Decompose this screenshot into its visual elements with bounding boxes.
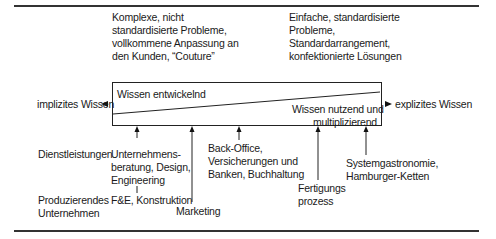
knowledge-developing-label: Wissen entwickelnd	[117, 88, 206, 101]
text-line: Wissen nutzend und	[292, 103, 377, 116]
text-line: Systemgastronomie,	[346, 157, 438, 170]
implicit-knowledge-label: implizites Wissen	[37, 98, 114, 111]
text-line: Produzierendes	[38, 194, 109, 207]
up-arrow-icon	[190, 126, 195, 132]
text-line: Unternehmen	[38, 207, 109, 220]
up-arrow-icon	[237, 126, 242, 132]
text-line: prozess	[298, 195, 346, 208]
explicit-knowledge-label: explizites Wissen	[395, 98, 472, 111]
text-line: Banken, Buchhaltung	[208, 168, 304, 181]
text-line: Unternehmens-	[111, 148, 191, 161]
services-label: Dienstleistungen	[38, 148, 112, 161]
text-line: Back-Office,	[208, 142, 304, 155]
text-line: beratung, Design,	[111, 161, 191, 174]
knowledge-using-label: Wissen nutzend und multiplizierend	[293, 103, 377, 129]
backoffice-item: Back-Office, Versicherungen und Banken, …	[208, 142, 304, 181]
marketing-item: Marketing	[176, 205, 220, 218]
up-arrow-icon	[135, 126, 140, 132]
right-arrow-icon	[385, 101, 392, 107]
manufacturing-label: Produzierendes Unternehmen	[38, 194, 109, 220]
text-line: Hamburger-Ketten	[346, 170, 438, 183]
systemgastro-item: Systemgastronomie, Hamburger-Ketten	[346, 157, 438, 183]
text-line: Fertigungs	[298, 182, 346, 195]
production-item: Fertigungs prozess	[298, 182, 346, 208]
text-line: multiplizierend	[293, 116, 377, 129]
text-line: Versicherungen und	[208, 155, 304, 168]
text-line: Engineering	[111, 174, 191, 187]
consulting-item: Unternehmens- beratung, Design, Engineer…	[111, 148, 191, 187]
